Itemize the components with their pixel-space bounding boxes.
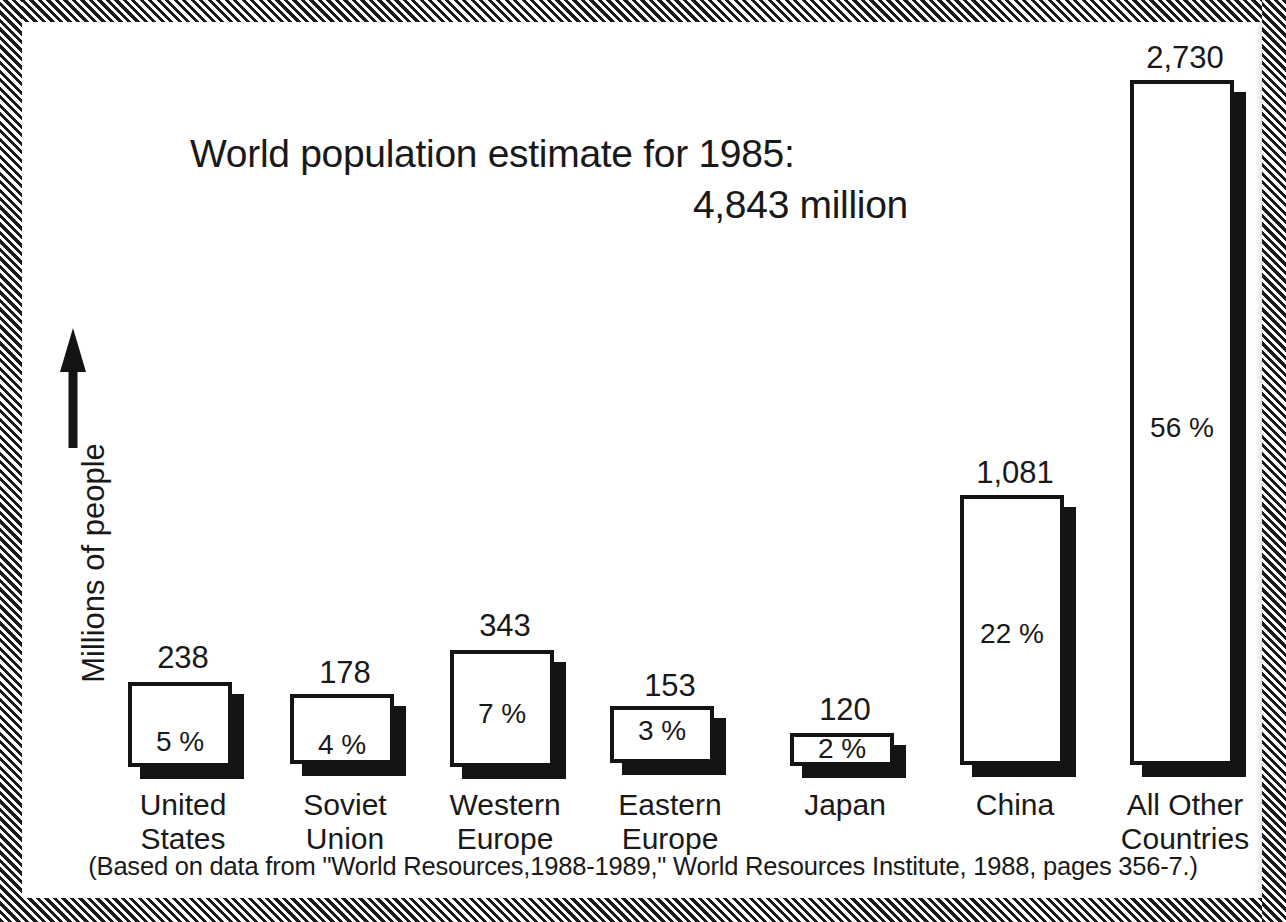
bar-percent-label: 5 % xyxy=(128,726,232,758)
frame-border-top xyxy=(0,0,1286,22)
bar-category-label: Eastern Europe xyxy=(600,788,740,855)
bar-percent-label: 4 % xyxy=(290,729,394,761)
frame-border-bottom xyxy=(0,898,1286,922)
y-axis-arrow-icon xyxy=(60,328,86,448)
bar-group-japan: 120 2 % Japan xyxy=(780,692,910,855)
bar-category-label: All Other Countries xyxy=(1120,788,1250,855)
bar-group-soviet-union: 178 4 % Soviet Union xyxy=(280,655,410,855)
chart-figure: World population estimate for 1985: 4,84… xyxy=(0,0,1286,922)
bar-value-label: 120 xyxy=(780,692,910,728)
bar-value-label: 343 xyxy=(440,608,570,644)
frame-border-right xyxy=(1262,0,1286,922)
bar-group-all-other-countries: 2,730 56 % All Other Countries xyxy=(1120,40,1250,855)
bar-category-label: China xyxy=(950,788,1080,822)
bar-value-label: 238 xyxy=(118,640,248,676)
bar-category-label: Soviet Union xyxy=(280,788,410,855)
bar-group-eastern-europe: 153 3 % Eastern Europe xyxy=(600,668,740,855)
bar-value-label: 153 xyxy=(600,668,740,704)
bar-group-china: 1,081 22 % China xyxy=(950,455,1080,855)
bar-percent-label: 3 % xyxy=(610,715,714,747)
chart-title: World population estimate for 1985: 4,84… xyxy=(190,128,930,231)
bar-percent-label: 56 % xyxy=(1130,412,1234,444)
bar-category-label: United States xyxy=(118,788,248,855)
bar-percent-label: 7 % xyxy=(450,698,554,730)
bar-percent-label: 2 % xyxy=(790,733,894,765)
bar-group-united-states: 238 5 % United States xyxy=(118,640,248,855)
bar-category-label: Japan xyxy=(780,788,910,822)
chart-title-line-2: 4,843 million xyxy=(190,179,930,230)
chart-title-line-1: World population estimate for 1985: xyxy=(190,128,930,179)
bar-value-label: 1,081 xyxy=(950,455,1080,491)
bar-value-label: 2,730 xyxy=(1120,40,1250,76)
frame-inner-shadow xyxy=(1255,22,1262,898)
bar-category-label: Western Europe xyxy=(440,788,570,855)
bar-group-western-europe: 343 7 % Western Europe xyxy=(440,608,570,855)
y-axis-label: Millions of people xyxy=(76,433,112,693)
chart-source-caption: (Based on data from "World Resources,198… xyxy=(0,852,1286,881)
frame-border-left xyxy=(0,0,22,922)
bar-percent-label: 22 % xyxy=(960,618,1064,650)
bar-value-label: 178 xyxy=(280,655,410,691)
